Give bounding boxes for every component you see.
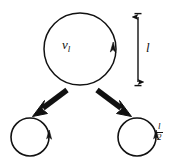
child-eddy-right-circle xyxy=(118,118,156,156)
length-scale-label: l xyxy=(146,41,150,54)
child-eddy-right-size-label: l 2 xyxy=(156,122,163,143)
fraction: l 2 xyxy=(156,122,163,143)
child-eddy-left-circle xyxy=(11,118,49,156)
velocity-subscript: l xyxy=(68,44,71,54)
parent-eddy-velocity-label: vl xyxy=(62,38,70,54)
parent-eddy-group xyxy=(44,13,116,85)
cascade-arrow-left-group xyxy=(33,90,68,117)
cascade-arrow-right-shaft xyxy=(97,90,121,108)
cascade-arrow-right-group xyxy=(97,90,132,117)
child-eddy-right-group xyxy=(118,118,159,156)
eddy-cascade-diagram: vl l l 2 xyxy=(0,0,169,165)
diagram-canvas xyxy=(0,0,169,165)
fraction-numerator: l xyxy=(156,122,163,131)
child-eddy-left-group xyxy=(11,118,52,156)
length-scale-bar-group xyxy=(135,14,142,86)
cascade-arrow-left-shaft xyxy=(43,90,67,108)
fraction-denominator: 2 xyxy=(156,133,163,142)
parent-eddy-circle xyxy=(44,13,116,85)
